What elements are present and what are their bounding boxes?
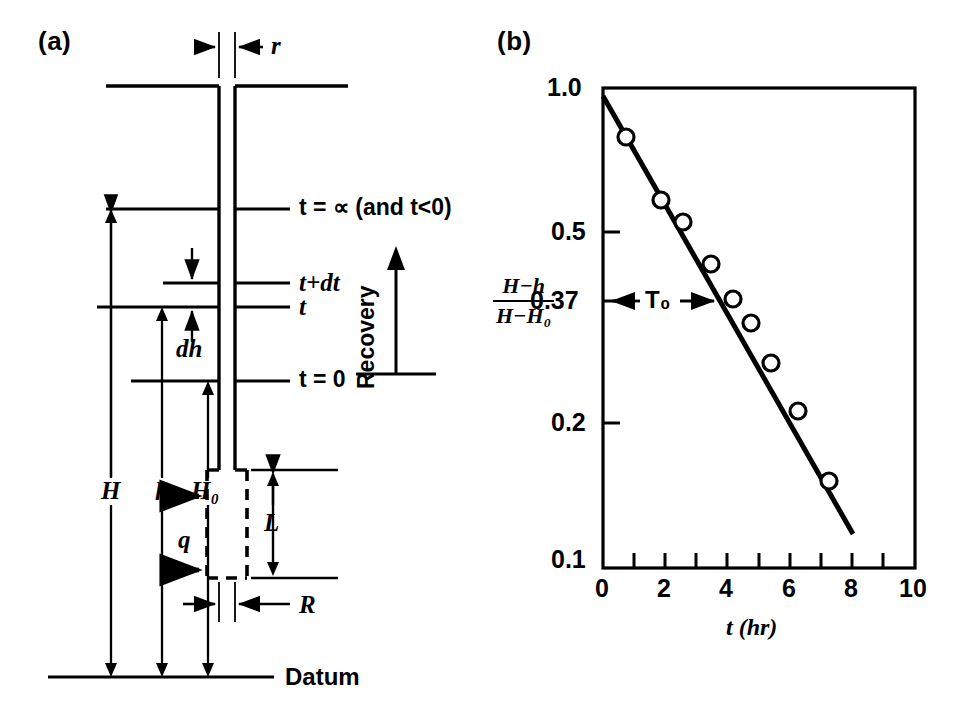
data-point (725, 291, 741, 307)
annotation-T0-text: T₀ (645, 286, 670, 313)
y-axis-title-numerator: H−h (493, 273, 554, 300)
x-tick-label-8: 8 (844, 576, 858, 601)
panel-b-plot (603, 88, 915, 568)
x-tick-label-0: 0 (595, 576, 609, 601)
data-point (675, 214, 691, 230)
figure-root: (a) r t = ∝ (and t<0) t+dt t t = 0 dh H … (0, 0, 969, 722)
x-tick-label-10: 10 (899, 576, 927, 601)
x-tick-label-4: 4 (719, 576, 733, 601)
radius-guide-lines (219, 32, 235, 78)
label-q: q (178, 527, 191, 552)
y-axis-title: H−h H−H₀ (493, 273, 554, 329)
y-axis-title-denominator: H−H₀ (493, 300, 554, 329)
label-L: L (264, 510, 279, 535)
data-point (618, 129, 634, 145)
annotation-T0: T₀ (645, 288, 670, 312)
label-recovery: Recovery (355, 285, 378, 389)
data-point (743, 315, 759, 331)
y-tick-label-4: 0.2 (551, 410, 586, 435)
fitted-line (603, 96, 853, 534)
label-t-infinity-text: t = ∝ (and t<0) (299, 194, 452, 220)
x-axis-title-text: t (hr) (726, 614, 777, 640)
x-tick-label-2: 2 (657, 576, 671, 601)
figure-vector-layer (0, 0, 969, 722)
data-point (763, 355, 779, 371)
label-H0: H₀ (191, 478, 219, 503)
label-H: H (101, 478, 120, 503)
x-axis-ticks (634, 553, 883, 568)
y-tick-label-1: 1.0 (547, 75, 582, 100)
data-point (821, 473, 837, 489)
x-axis-title: t (hr) (726, 615, 777, 639)
panel-b-tag: (b) (497, 28, 532, 54)
x-tick-label-6: 6 (782, 576, 796, 601)
panel-a-tag: (a) (38, 28, 71, 54)
H-dimension-arrow (105, 209, 117, 677)
label-t-plus-dt: t+dt (299, 270, 340, 295)
data-point (790, 403, 806, 419)
label-t: t (299, 294, 306, 319)
label-R: R (299, 592, 316, 617)
data-point (653, 192, 669, 208)
y-tick-label-2: 0.5 (551, 219, 586, 244)
label-dh: dh (176, 336, 202, 361)
label-h: h (155, 479, 169, 504)
label-t-infinity: t = ∝ (and t<0) (299, 196, 452, 219)
R-dimension (183, 582, 290, 622)
y-tick-label-5: 0.1 (551, 547, 586, 572)
label-r: r (271, 33, 281, 58)
y-axis-ticks (603, 232, 620, 423)
label-datum: Datum (285, 665, 360, 689)
data-point (703, 256, 719, 272)
label-t-zero: t = 0 (299, 368, 346, 391)
well-casing (219, 86, 235, 470)
